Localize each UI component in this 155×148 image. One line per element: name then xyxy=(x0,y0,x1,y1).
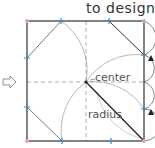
measure-arc xyxy=(144,21,155,55)
corner-cut xyxy=(27,21,61,58)
arc xyxy=(61,82,86,141)
corner-cut xyxy=(27,107,62,141)
arc xyxy=(61,21,87,82)
right-arrow-icon xyxy=(3,76,16,88)
corner-cut xyxy=(109,21,144,55)
measure-arc xyxy=(144,82,154,109)
triangle-marker-icon xyxy=(148,55,154,61)
square-design-diagram: center radius xyxy=(0,0,155,148)
center-point xyxy=(85,81,88,84)
center-label: center xyxy=(95,71,131,84)
arc xyxy=(86,82,144,109)
radius-label: radius xyxy=(88,108,122,121)
